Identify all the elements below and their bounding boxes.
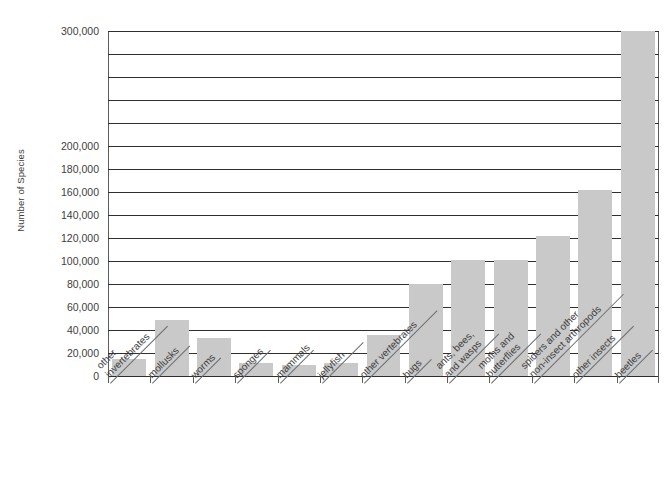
y-axis-title-label: Number of Species [15, 149, 26, 232]
x-axis-tick [658, 376, 659, 383]
y-axis-tick-label: 300,000 [61, 25, 99, 37]
y-axis-tick-label: 180,000 [61, 163, 99, 175]
x-axis: otherinvertebratesmolluskswormsspongesma… [108, 376, 659, 483]
y-axis-tick-label: 200,000 [61, 140, 99, 152]
y-axis-tick-labels: 300,000200,000180,000160,000140,000120,0… [38, 0, 104, 483]
chart-page: Number of Species 300,000200,000180,0001… [0, 0, 669, 483]
y-axis-tick-label: 100,000 [61, 255, 99, 267]
y-axis-tick-label: 80,000 [67, 278, 99, 290]
y-axis-tick-label: 160,000 [61, 186, 99, 198]
y-axis-tick-label: 20,000 [67, 347, 99, 359]
y-axis-tick-label: 140,000 [61, 209, 99, 221]
y-axis-title: Number of Species [0, 0, 40, 380]
bar[interactable] [621, 31, 655, 376]
y-axis-tick-label: 60,000 [67, 301, 99, 313]
y-axis-tick-label: 120,000 [61, 232, 99, 244]
y-axis-tick-label: 40,000 [67, 324, 99, 336]
y-axis-tick-label: 0 [93, 370, 99, 382]
